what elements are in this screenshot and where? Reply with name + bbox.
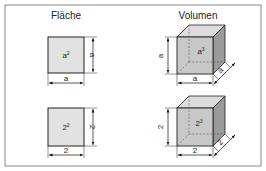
height-label: a [88,53,97,58]
diagram: Fläche Volumen a2 a a 22 2 2 a3 [0,0,266,171]
title-volume: Volumen [179,10,218,21]
width-label: a [193,74,198,83]
cube-front-face [177,37,213,74]
width-label: a [64,74,69,83]
height-label: 2 [156,124,165,129]
width-label: 2 [193,146,198,155]
height-label: 2 [88,125,97,130]
height-label: a [156,53,165,58]
title-area: Fläche [51,10,81,21]
width-label: 2 [64,146,69,155]
